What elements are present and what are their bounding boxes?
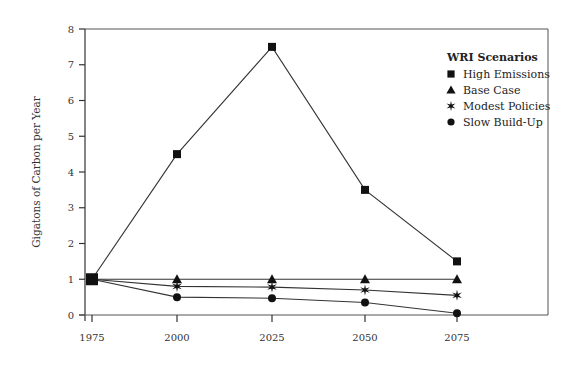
legend-label: Modest Policies: [463, 100, 551, 113]
circle-marker-icon: [453, 309, 461, 317]
legend-item: High Emissions: [447, 68, 550, 81]
legend-label: Slow Build-Up: [463, 116, 543, 129]
circle-marker-icon: [361, 298, 369, 306]
series-base-case: [92, 274, 462, 283]
y-axis: 012345678: [68, 24, 85, 322]
legend-item: Modest Policies: [447, 100, 551, 113]
series-group: [86, 43, 462, 317]
x-axis: 19752000202520502075: [79, 315, 548, 343]
legend-label: High Emissions: [463, 68, 550, 81]
circle-marker-icon: [268, 294, 276, 302]
y-tick-label: 8: [68, 24, 74, 35]
square-marker-icon: [173, 150, 181, 158]
square-marker-icon: [86, 273, 98, 285]
series-high-emissions: [92, 43, 461, 279]
series-slow-build-up: [92, 279, 461, 317]
y-tick-label: 0: [68, 310, 74, 321]
legend-label: Base Case: [463, 84, 520, 97]
x-tick-label: 2000: [164, 332, 189, 343]
y-tick-label: 1: [68, 274, 74, 285]
y-tick-label: 3: [68, 202, 74, 213]
circle-marker-icon: [447, 118, 454, 125]
legend-item: Base Case: [446, 84, 520, 97]
y-tick-label: 7: [68, 59, 74, 70]
x-tick-label: 1975: [79, 332, 104, 343]
star-marker-icon: [447, 101, 456, 111]
legend-title: WRI Scenarios: [446, 51, 538, 64]
y-tick-label: 6: [68, 95, 74, 106]
square-marker-icon: [361, 186, 369, 194]
x-tick-label: 2075: [444, 332, 469, 343]
y-tick-label: 2: [68, 238, 74, 249]
series-modest-policies: [92, 279, 462, 301]
series-line: [92, 47, 457, 279]
legend: WRI Scenarios High EmissionsBase CaseMod…: [446, 51, 551, 129]
legend-item: Slow Build-Up: [447, 116, 542, 129]
square-marker-icon: [447, 70, 454, 77]
y-axis-title: Gigatons of Carbon per Year: [30, 95, 42, 248]
square-marker-icon: [453, 257, 461, 265]
y-tick-label: 4: [68, 167, 74, 178]
square-marker-icon: [268, 43, 276, 51]
y-tick-label: 5: [68, 131, 74, 142]
circle-marker-icon: [173, 293, 181, 301]
x-tick-label: 2050: [352, 332, 377, 343]
triangle-marker-icon: [446, 85, 455, 93]
emissions-chart: 012345678 19752000202520502075 Gigatons …: [0, 0, 578, 370]
x-tick-label: 2025: [259, 332, 284, 343]
